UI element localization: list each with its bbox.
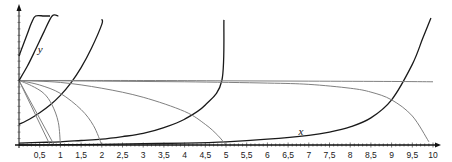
x-tick-label: 7 [306,150,311,160]
x-tick-label: 9,5 [406,150,418,160]
x-tick-label: 1 [58,150,63,160]
x-tick-label: 4,5 [199,150,211,160]
chart-canvas: 0,511,522,533,544,555,566,577,588,599,51… [0,0,452,162]
x-tick-label: 6,5 [282,150,294,160]
x-tick-label: 8,5 [365,150,377,160]
x-tick-label: 5 [224,150,229,160]
x-axis-tick-labels: 0,511,522,533,544,555,566,577,588,599,51… [34,150,438,160]
x-axis-arrow-icon [435,143,441,148]
series-gray-line-a [19,81,50,146]
series-dark-1 [19,15,50,56]
series-layer [19,15,433,145]
x-tick-label: 4 [182,150,187,160]
x-tick-label: 8 [348,150,353,160]
axis-variable-label-x: x [297,125,303,137]
x-tick-label: 1,5 [75,150,87,160]
annotations: yx [37,43,304,137]
series-dark-3 [19,19,103,124]
x-tick-label: 10 [428,150,438,160]
x-tick-label: 9 [389,150,394,160]
x-tick-label: 3,5 [158,150,170,160]
x-tick-label: 6 [265,150,270,160]
series-gray-curve-10 [19,81,429,142]
x-tick-label: 2,5 [117,150,129,160]
y-axis-arrow-icon [17,4,22,11]
series-gray-line-b [19,81,54,146]
x-tick-label: 3 [141,150,146,160]
axis-variable-label-y: y [37,43,43,55]
x-tick-label: 7,5 [324,150,336,160]
series-gray-curve-2 [19,81,102,146]
x-tick-label: 5,5 [241,150,253,160]
x-tick-label: 0,5 [34,150,46,160]
x-tick-label: 2 [99,150,104,160]
